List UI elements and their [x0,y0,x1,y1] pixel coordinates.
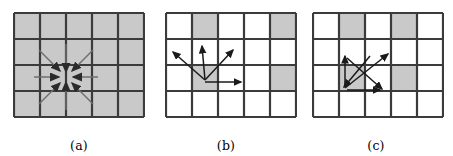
panel-c-caption: (c) [299,140,453,153]
panel-b-svg [165,12,297,118]
panel-a-grid [13,12,145,118]
panel-a: (a) [0,0,158,156]
panel-c: (c) [299,0,453,156]
shaded-cell-r1c2 [339,13,365,39]
shaded-cell-r3c5 [270,65,296,91]
shaded-cell-r1c2 [192,13,218,39]
shaded-cell-r1c5 [270,13,296,39]
panel-c-svg [312,12,444,118]
shaded-cell-r3c4 [391,65,417,91]
panel-a-svg [13,12,145,118]
panel-a-caption: (a) [0,140,158,153]
panel-b-caption: (b) [152,140,300,153]
panel-b-grid [165,12,297,118]
figure-container: (a) [0,0,453,156]
panel-c-grid [312,12,444,118]
shaded-cell-r1c4 [391,13,417,39]
panel-b: (b) [152,0,300,156]
